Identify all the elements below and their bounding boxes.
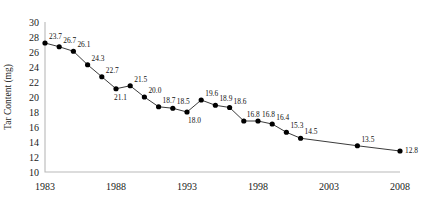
y-tick-label: 18 [29,107,39,118]
data-point-marker [227,105,232,110]
data-point-marker [184,109,189,114]
y-tick-label: 14 [29,137,39,148]
data-point-marker [298,136,303,141]
x-tick-label: 1993 [177,181,197,192]
data-point-marker [71,49,76,54]
data-point-label: 16.4 [276,113,289,122]
data-point-label: 26.7 [63,36,76,45]
data-point-label: 20.0 [148,86,161,95]
data-point-label: 23.7 [49,32,62,41]
data-point-marker [255,118,260,123]
y-axis-title: Tar Content (mg) [3,64,14,130]
chart-background [0,0,424,219]
y-tick-label: 20 [29,92,39,103]
data-point-marker [270,121,275,126]
y-tick-label: 10 [29,167,39,178]
y-tick-label: 22 [29,77,39,88]
data-point-label: 26.1 [77,40,90,49]
data-point-label: 18.0 [188,116,201,125]
y-tick-label: 16 [29,122,39,133]
chart-container: Tar Content (mg) 1012141618202224262830 … [0,0,424,219]
data-point-marker [113,86,118,91]
tar-content-line-chart: Tar Content (mg) 1012141618202224262830 … [0,0,424,219]
data-point-marker [199,97,204,102]
data-point-label: 21.1 [114,93,127,102]
data-point-marker [42,40,47,45]
data-point-marker [241,118,246,123]
y-tick-label: 28 [29,32,39,43]
y-axis-tick-labels: 1012141618202224262830 [29,17,39,178]
data-point-label: 12.8 [405,146,418,155]
data-point-label: 18.7 [163,96,176,105]
data-point-marker [142,94,147,99]
data-point-label: 15.3 [290,121,303,130]
x-tick-label: 1988 [106,181,126,192]
data-point-marker [284,130,289,135]
data-point-label: 18.6 [234,97,247,106]
data-point-label: 16.8 [247,110,260,119]
data-point-marker [397,148,402,153]
data-point-marker [355,143,360,148]
x-tick-label: 1998 [248,181,268,192]
y-tick-label: 24 [29,62,39,73]
data-point-label: 16.8 [262,110,275,119]
data-point-marker [85,62,90,67]
x-tick-label: 2003 [319,181,339,192]
data-point-marker [170,106,175,111]
data-point-marker [57,44,62,49]
data-point-label: 21.5 [134,75,147,84]
y-tick-label: 12 [29,152,39,163]
y-tick-label: 26 [29,47,39,58]
data-point-marker [213,103,218,108]
data-point-label: 14.5 [305,127,318,136]
data-point-label: 24.3 [92,54,105,63]
x-tick-label: 2008 [390,181,410,192]
y-axis-title-text: Tar Content (mg) [3,64,14,130]
data-point-label: 18.5 [177,97,190,106]
data-point-label: 22.7 [106,66,119,75]
data-point-label: 13.5 [361,135,374,144]
data-point-label: 18.9 [219,94,232,103]
x-tick-label: 1983 [35,181,55,192]
data-point-label: 19.6 [205,89,218,98]
data-point-marker [156,104,161,109]
data-point-marker [99,74,104,79]
data-point-marker [128,83,133,88]
y-tick-label: 30 [29,17,39,28]
